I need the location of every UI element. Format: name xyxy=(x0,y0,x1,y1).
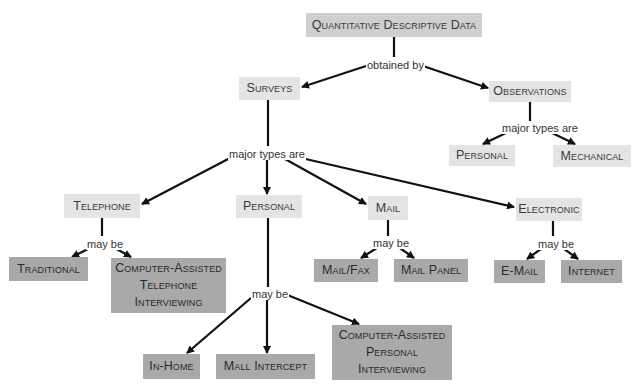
link-label-surveys-types: major types are xyxy=(228,148,306,160)
arrow-to-surveys xyxy=(302,66,366,87)
link-label-mail-may-be: may be xyxy=(372,237,410,249)
node-e-mail[interactable]: E-Mail xyxy=(494,260,545,283)
node-observation-mechanical[interactable]: Mechanical xyxy=(553,145,631,167)
node-telephone[interactable]: Telephone xyxy=(64,194,140,218)
node-quantitative-descriptive-data[interactable]: Quantitative Descriptive Data xyxy=(306,13,482,37)
node-personal[interactable]: Personal xyxy=(236,195,302,218)
link-label-telephone-may-be: may be xyxy=(86,238,124,250)
node-traditional[interactable]: Traditional xyxy=(9,257,88,281)
link-label-electronic-may-be: may be xyxy=(537,238,575,250)
arrow-to-observations xyxy=(423,66,488,88)
link-label-personal-may-be: may be xyxy=(251,288,289,300)
node-in-home[interactable]: In-Home xyxy=(143,354,200,379)
node-observations[interactable]: Observations xyxy=(489,81,571,102)
node-surveys[interactable]: Surveys xyxy=(239,77,300,100)
node-mail[interactable]: Mail xyxy=(368,196,408,220)
node-internet[interactable]: Internet xyxy=(561,260,622,283)
node-mall-intercept[interactable]: Mall Intercept xyxy=(216,354,315,379)
node-capi[interactable]: Computer-Assisted Personal Interviewing xyxy=(332,325,452,380)
node-observation-personal[interactable]: Personal xyxy=(449,145,515,166)
node-cati[interactable]: Computer-Assisted Telephone Interviewing xyxy=(111,258,226,313)
node-electronic[interactable]: Electronic xyxy=(516,198,582,221)
node-mail-fax[interactable]: Mail/Fax xyxy=(314,259,378,282)
link-label-obtained-by: obtained by xyxy=(366,59,425,71)
link-label-observations-types: major types are xyxy=(501,122,579,134)
node-mail-panel[interactable]: Mail Panel xyxy=(394,259,468,282)
